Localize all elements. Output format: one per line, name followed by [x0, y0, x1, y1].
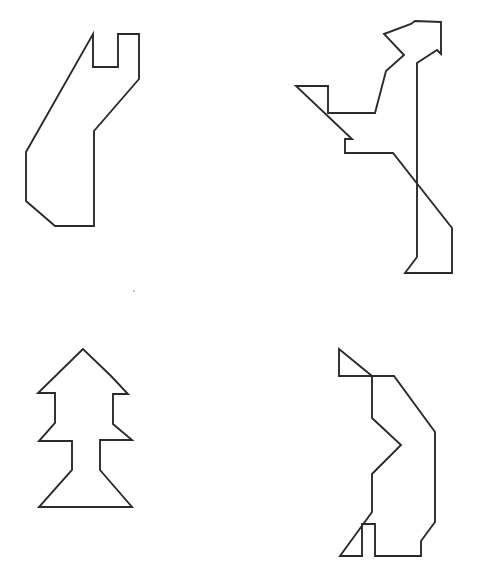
dust-speck-artifact	[133, 290, 135, 292]
canvas-background	[0, 0, 487, 583]
line-drawing-canvas	[0, 0, 487, 583]
